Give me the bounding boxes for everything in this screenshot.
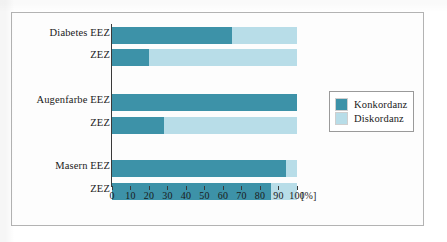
bar-augenfarbe-zez (112, 117, 297, 134)
chart-legend: Konkordanz Diskordanz (329, 91, 414, 132)
bar-segment-konkordanz (112, 27, 232, 44)
x-tick-80 (260, 186, 261, 190)
bar-segment-diskordanz (232, 27, 297, 44)
bar-segment-konkordanz (112, 117, 164, 134)
x-tick-50 (204, 186, 205, 190)
bar-masern-eez (112, 160, 297, 177)
legend-label-konkordanz: Konkordanz (354, 99, 407, 110)
x-tick-100 (297, 186, 298, 190)
x-tick-70 (241, 186, 242, 190)
x-tick-40 (186, 186, 187, 190)
bar-segment-diskordanz (164, 117, 297, 134)
y-axis-label-masern-eez: Masern EEZ (14, 160, 110, 171)
bar-augenfarbe-eez (112, 94, 297, 111)
legend-swatch-konkordanz (335, 98, 348, 111)
bar-segment-konkordanz (112, 49, 149, 66)
bar-segment-konkordanz (112, 160, 286, 177)
bar-diabetes-zez (112, 49, 297, 66)
x-tick-60 (223, 186, 224, 190)
x-tick-90 (278, 186, 279, 190)
bar-segment-diskordanz (286, 160, 297, 177)
x-tick-0 (112, 186, 113, 190)
x-tick-30 (167, 186, 168, 190)
x-axis-unit-label: [%] (301, 190, 317, 201)
bar-diabetes-eez (112, 27, 297, 44)
legend-item-diskordanz: Diskordanz (335, 112, 407, 125)
bar-segment-diskordanz (149, 49, 297, 66)
y-axis-label-diabetes-zez: ZEZ (14, 49, 110, 60)
plot-area (112, 24, 297, 184)
legend-item-konkordanz: Konkordanz (335, 98, 407, 111)
bar-segment-konkordanz (112, 94, 297, 111)
legend-label-diskordanz: Diskordanz (354, 113, 404, 124)
y-axis-label-augenfarbe-eez: Augenfarbe EEZ (14, 94, 110, 105)
x-tick-10 (130, 186, 131, 190)
x-tick-20 (149, 186, 150, 190)
legend-swatch-diskordanz (335, 112, 348, 125)
y-axis-label-masern-zez: ZEZ (14, 183, 110, 194)
y-axis-label-diabetes-eez: Diabetes EEZ (14, 27, 110, 38)
y-axis-label-augenfarbe-zez: ZEZ (14, 117, 110, 128)
